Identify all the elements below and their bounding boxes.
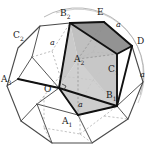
vertex-label-A1: A1: [62, 117, 72, 128]
geometry-figure: B2 E D C2 A2 C1 A3 O B1 A1 a a a a: [0, 0, 155, 156]
vertex-label-B1: B1: [106, 91, 116, 102]
vertex-label-E: E: [97, 8, 104, 19]
vertex-label-C1: C1: [108, 65, 119, 76]
edge-length-label-right: a: [140, 71, 145, 79]
vertex-label-D: D: [137, 37, 144, 48]
vertex-label-B2: B2: [60, 9, 70, 20]
vertex-label-A2: A2: [74, 55, 84, 66]
edge-length-label-bottom: a: [78, 101, 83, 109]
edge-length-label-left: a: [50, 39, 55, 47]
edge-length-label-top: a: [116, 21, 121, 29]
vertex-label-O: O: [44, 85, 51, 96]
vertex-label-A3: A3: [1, 75, 11, 86]
figure-canvas: [0, 0, 155, 156]
vertex-label-C2: C2: [13, 31, 24, 42]
